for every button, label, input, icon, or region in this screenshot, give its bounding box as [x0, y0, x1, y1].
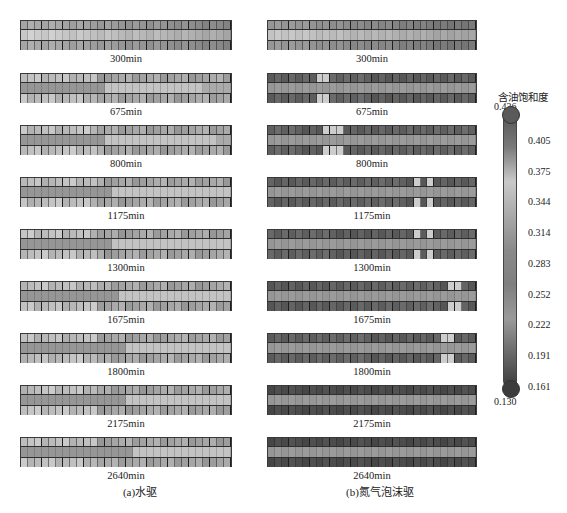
- grid-cell: [421, 343, 428, 353]
- grid-cell: [112, 146, 119, 155]
- grid-cell: [168, 343, 175, 353]
- grid-cell: [182, 334, 189, 342]
- grid-cell: [448, 291, 455, 301]
- grid-cell: [434, 282, 441, 290]
- grid-cell: [224, 458, 231, 467]
- grid-cell: [224, 343, 231, 353]
- grid-cell: [386, 198, 393, 207]
- grid-cell: [105, 291, 112, 301]
- grid-cell: [63, 21, 70, 29]
- grid-cell: [49, 135, 56, 145]
- grid-cell: [49, 230, 56, 238]
- grid-cell: [268, 198, 275, 207]
- grid-cell: [282, 239, 289, 249]
- grid-cell: [407, 395, 414, 405]
- grid-cell: [133, 302, 140, 311]
- grid-cell: [365, 302, 372, 311]
- grid-cell: [77, 30, 84, 40]
- grid-cell: [56, 406, 63, 415]
- grid-cell: [317, 126, 324, 134]
- grid-cell: [49, 94, 56, 103]
- grid-cell: [98, 198, 105, 207]
- grid-cell: [393, 21, 400, 29]
- grid-cell: [344, 30, 351, 40]
- grid-cell: [351, 178, 358, 186]
- grid-cell: [268, 135, 275, 145]
- grid-cell: [49, 302, 56, 311]
- grid-cell: [175, 178, 182, 186]
- grid-cell: [310, 178, 317, 186]
- grid-cell: [282, 30, 289, 40]
- grid-cell: [140, 21, 147, 29]
- grid-cell: [296, 250, 303, 259]
- grid-cell: [330, 447, 337, 457]
- grid-cell: [407, 94, 414, 103]
- grid-cell: [189, 343, 196, 353]
- grid-cell: [84, 178, 91, 186]
- grid-cell: [224, 30, 231, 40]
- grid-cell: [154, 354, 161, 363]
- grid-cell: [455, 334, 462, 342]
- grid-cell: [379, 282, 386, 290]
- grid-cell: [35, 187, 42, 197]
- grid-cell: [154, 198, 161, 207]
- grid-cell: [91, 395, 98, 405]
- time-label: 2175min: [312, 418, 432, 429]
- grid-cell: [317, 83, 324, 93]
- grid-cell: [126, 458, 133, 467]
- grid-cell: [126, 187, 133, 197]
- grid-cell: [296, 395, 303, 405]
- grid-cell: [147, 302, 154, 311]
- grid-cell: [303, 282, 310, 290]
- grid-cell: [56, 302, 63, 311]
- grid-cell: [168, 126, 175, 134]
- grid-cell: [91, 334, 98, 342]
- grid-cell: [268, 395, 275, 405]
- grid-cell: [462, 302, 469, 311]
- grid-cell: [196, 343, 203, 353]
- grid-cell: [133, 395, 140, 405]
- grid-cell: [330, 438, 337, 446]
- grid-cell: [28, 230, 35, 238]
- grid-cell: [358, 250, 365, 259]
- grid-cell: [317, 146, 324, 155]
- grid-cell: [296, 386, 303, 394]
- grid-row: [268, 238, 476, 250]
- grid-cell: [161, 187, 168, 197]
- grid-row: [21, 238, 231, 250]
- grid-cell: [282, 230, 289, 238]
- grid-cell: [217, 135, 224, 145]
- grid-cell: [372, 250, 379, 259]
- grid-cell: [441, 291, 448, 301]
- grid-cell: [133, 447, 140, 457]
- grid-cell: [448, 334, 455, 342]
- grid-cell: [310, 135, 317, 145]
- time-label: 675min: [312, 106, 432, 117]
- grid-cell: [84, 74, 91, 82]
- grid-cell: [372, 395, 379, 405]
- grid-cell: [462, 126, 469, 134]
- grid-cell: [282, 135, 289, 145]
- grid-cell: [161, 386, 168, 394]
- grid-cell: [49, 343, 56, 353]
- grid-cell: [175, 282, 182, 290]
- grid-cell: [323, 230, 330, 238]
- grid-row: [268, 82, 476, 94]
- grid-cell: [98, 83, 105, 93]
- grid-cell: [182, 126, 189, 134]
- grid-cell: [421, 386, 428, 394]
- grid-cell: [91, 343, 98, 353]
- grid-cell: [414, 291, 421, 301]
- grid-cell: [217, 302, 224, 311]
- grid-cell: [154, 291, 161, 301]
- grid-cell: [210, 230, 217, 238]
- grid-cell: [133, 135, 140, 145]
- grid-cell: [161, 41, 168, 50]
- grid-cell: [351, 41, 358, 50]
- grid-cell: [296, 282, 303, 290]
- grid-cell: [455, 146, 462, 155]
- grid-cell: [35, 178, 42, 186]
- grid-cell: [56, 146, 63, 155]
- grid-cell: [323, 282, 330, 290]
- grid-row: [21, 41, 231, 50]
